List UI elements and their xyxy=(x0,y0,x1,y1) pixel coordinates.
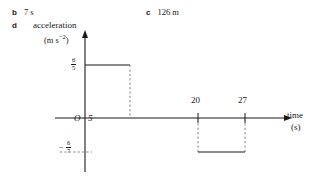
ytick-negative-sign: − xyxy=(59,144,64,152)
y-axis-arrowhead xyxy=(82,30,88,38)
ytick-negative-denominator: 7 xyxy=(66,147,71,155)
y-axis-units-exponent: −2 xyxy=(59,33,66,40)
y-axis-title: acceleration xyxy=(33,20,76,30)
y-axis-units: (m s−2) xyxy=(44,33,69,45)
x-axis-title: time xyxy=(287,110,303,120)
xtick-label-5: 5 xyxy=(88,113,93,123)
ytick-positive-denominator: 5 xyxy=(71,64,76,72)
ytick-positive-numerator: 6 xyxy=(71,57,76,64)
y-axis-units-text: (m s xyxy=(44,35,59,45)
ytick-label-positive: 6 5 xyxy=(71,57,76,72)
ytick-negative-numerator: 6 xyxy=(66,140,71,147)
xtick-label-20: 20 xyxy=(191,95,200,105)
x-axis-units: (s) xyxy=(291,122,301,132)
ytick-label-negative: − 6 7 xyxy=(66,140,71,155)
origin-label: O xyxy=(74,113,81,123)
acceleration-time-graph: acceleration (m s−2) O 5 20 27 time (s) … xyxy=(0,0,317,179)
xtick-label-27: 27 xyxy=(238,95,247,105)
y-axis-units-close: ) xyxy=(66,35,69,45)
